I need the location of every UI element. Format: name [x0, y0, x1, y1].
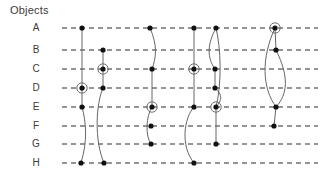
track-4-node-E	[191, 104, 196, 109]
track-4-node-H	[191, 160, 196, 165]
storyline-chart: Objects ABCDEFGH	[0, 0, 326, 183]
track-6-path	[274, 28, 285, 126]
track-4-path	[185, 28, 194, 163]
track-6-node-E	[273, 104, 278, 109]
track-2-node-C	[100, 66, 105, 71]
track-6-loop-path	[265, 28, 276, 107]
track-2-node-D	[100, 85, 105, 90]
storyline-svg: ABCDEFGH	[0, 0, 326, 183]
row-label-F: F	[33, 120, 39, 131]
row-label-H: H	[32, 157, 39, 168]
track-4-node-C	[191, 66, 196, 71]
row-label-G: G	[32, 138, 40, 149]
track-4-node-A	[191, 25, 196, 30]
track-1-node-E	[79, 104, 84, 109]
track-6-node-A	[272, 25, 277, 30]
row-label-C: C	[32, 63, 39, 74]
row-label-D: D	[32, 82, 39, 93]
track-2-node-B	[100, 47, 105, 52]
track-5-node-E	[213, 104, 218, 109]
track-6-node-F	[271, 123, 276, 128]
track-5-node-D	[212, 85, 217, 90]
track-2-node-H	[101, 160, 106, 165]
track-6-node-B	[273, 47, 278, 52]
track-3-node-C	[149, 66, 154, 71]
row-label-B: B	[33, 44, 40, 55]
track-3-node-G	[148, 141, 153, 146]
row-label-A: A	[33, 22, 40, 33]
track-5-node-A	[213, 25, 218, 30]
track-3-node-E	[149, 104, 154, 109]
track-5-node-C	[212, 66, 217, 71]
track-group	[81, 28, 285, 163]
track-1-node-H	[78, 160, 83, 165]
row-label-E: E	[33, 101, 40, 112]
row-label-group: ABCDEFGH	[32, 22, 40, 168]
track-1-node-D	[79, 85, 84, 90]
track-3-node-A	[147, 25, 152, 30]
track-5-node-G	[213, 141, 218, 146]
track-1-node-A	[79, 25, 84, 30]
track-3-node-F	[148, 123, 153, 128]
track-1-path	[81, 28, 86, 163]
